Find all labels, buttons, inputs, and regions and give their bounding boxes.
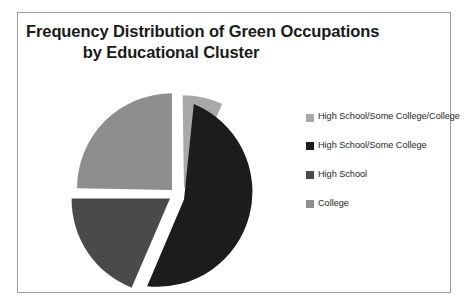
chart-title-line-2: by Educational Cluster xyxy=(26,42,316,63)
legend-swatch-icon xyxy=(306,114,314,122)
legend-item-high-school-some-college[interactable]: High School/Some College xyxy=(306,140,466,152)
pie-chart xyxy=(26,71,316,291)
legend-swatch-icon xyxy=(306,200,314,208)
chart-legend: High School/Some College/College High Sc… xyxy=(306,111,466,227)
pie-slice-high-school-some-college-college[interactable] xyxy=(77,93,172,190)
legend-item-label: College xyxy=(318,198,349,210)
legend-item-label: High School/Some College/College xyxy=(318,111,460,123)
legend-swatch-icon xyxy=(306,171,314,179)
legend-item-high-school[interactable]: High School xyxy=(306,169,466,181)
chart-title: Frequency Distribution of Green Occupati… xyxy=(26,21,316,63)
legend-item-high-school-some-college-college[interactable]: High School/Some College/College xyxy=(306,111,466,123)
pie-chart-svg xyxy=(26,71,316,291)
legend-item-label: High School xyxy=(318,169,367,181)
legend-swatch-icon xyxy=(306,142,314,150)
legend-item-label: High School/Some College xyxy=(318,140,427,152)
legend-item-college[interactable]: College xyxy=(306,198,466,210)
chart-plot-frame: Frequency Distribution of Green Occupati… xyxy=(17,12,451,293)
chart-title-line-1: Frequency Distribution of Green Occupati… xyxy=(26,21,316,42)
chart-figure: Frequency Distribution of Green Occupati… xyxy=(0,0,468,308)
